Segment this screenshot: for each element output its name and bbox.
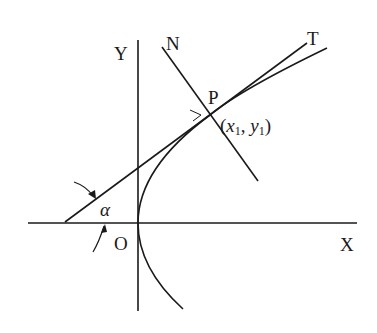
angle-label: α bbox=[100, 199, 111, 220]
normal-label: N bbox=[166, 33, 180, 54]
tangent-label: T bbox=[307, 28, 319, 49]
parabola-curve bbox=[138, 48, 327, 309]
arrowhead-lower-icon bbox=[101, 224, 107, 233]
y-axis-label: Y bbox=[114, 43, 128, 64]
parabola-tangent-normal-diagram: Y X O N T P α (x1, y1) bbox=[0, 0, 377, 333]
angle-arrow-lower bbox=[93, 226, 104, 252]
normal-line bbox=[162, 47, 258, 181]
point-label: P bbox=[208, 87, 219, 108]
point-coordinates: (x1, y1) bbox=[220, 115, 271, 138]
right-angle-mark bbox=[190, 110, 201, 121]
x-axis-label: X bbox=[340, 234, 354, 255]
origin-label: O bbox=[114, 233, 128, 254]
